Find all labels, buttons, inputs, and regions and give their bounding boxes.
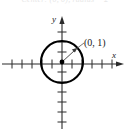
center-point-marker xyxy=(60,60,65,65)
x-axis-label: x xyxy=(111,50,116,60)
radius-point-label: (0, 1) xyxy=(84,37,106,49)
figure-container: Center: (0, 0), radius = 2 y xyxy=(0,0,130,133)
x-axis-arrowhead xyxy=(116,61,124,66)
coordinate-plane-plot: y x xyxy=(0,0,130,133)
label-leader-line xyxy=(76,43,84,49)
x-axis-group: x xyxy=(2,50,124,69)
y-axis-arrowhead xyxy=(59,16,64,24)
radius-arrow-group xyxy=(62,48,78,62)
y-axis-label: y xyxy=(51,14,56,24)
y-axis-group: y xyxy=(51,14,67,129)
